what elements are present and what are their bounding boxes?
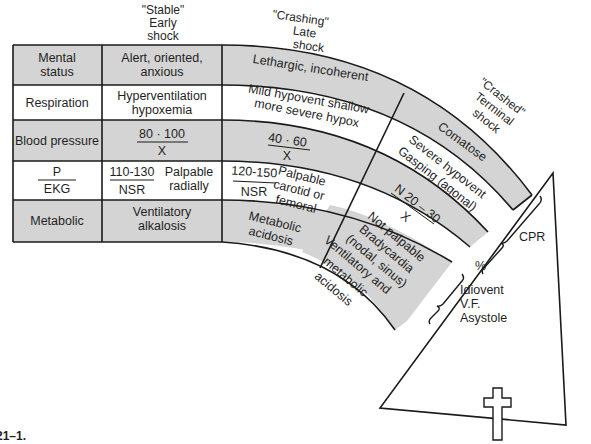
svg-text:alkalosis: alkalosis bbox=[138, 219, 186, 233]
svg-text:anxious: anxious bbox=[140, 65, 183, 79]
svg-text:hypoxemia: hypoxemia bbox=[132, 103, 192, 117]
row-label-respiration: Respiration bbox=[25, 96, 88, 110]
rhythm-vf: V.F. bbox=[460, 297, 480, 311]
svg-text:NSR: NSR bbox=[119, 183, 145, 197]
figure-label: 21–1. bbox=[0, 429, 26, 443]
svg-text:Palpable: Palpable bbox=[165, 165, 214, 179]
svg-text:110-130: 110-130 bbox=[110, 165, 155, 179]
shock-progression-diagram: "Stable" Early shock "Crashing" Late sho… bbox=[0, 0, 591, 444]
svg-text:shock: shock bbox=[147, 29, 179, 43]
row-label-ekg: EKG bbox=[44, 182, 70, 196]
svg-text:80 · 100: 80 · 100 bbox=[139, 127, 185, 141]
row-label-mental: Mental bbox=[38, 51, 76, 65]
svg-text:X: X bbox=[158, 144, 167, 158]
svg-text:X: X bbox=[283, 149, 292, 163]
stage-header-stable: "Stable" Early shock bbox=[142, 3, 185, 43]
stage-header-crashed: "Crashed" Terminal shock bbox=[470, 75, 528, 137]
svg-text:status: status bbox=[40, 65, 73, 79]
svg-text:"Stable": "Stable" bbox=[142, 3, 185, 17]
percent-label: % bbox=[475, 259, 486, 273]
svg-text:Early: Early bbox=[149, 16, 176, 30]
row-label-metabolic: Metabolic bbox=[30, 214, 84, 228]
rhythm-asystole: Asystole bbox=[460, 311, 507, 325]
svg-text:Hyperventilation: Hyperventilation bbox=[117, 89, 207, 103]
svg-text:Ventilatory: Ventilatory bbox=[133, 205, 192, 219]
svg-text:Alert, oriented,: Alert, oriented, bbox=[121, 51, 202, 65]
row-label-blood-pressure: Blood pressure bbox=[15, 134, 99, 148]
svg-text:NSR: NSR bbox=[241, 185, 267, 199]
svg-text:X: X bbox=[398, 209, 414, 226]
cpr-label: CPR bbox=[519, 230, 545, 244]
svg-text:120-150: 120-150 bbox=[231, 163, 278, 180]
svg-text:radially: radially bbox=[169, 179, 209, 193]
rhythm-idiovent: Idiovent bbox=[460, 283, 504, 297]
row-label-pulse: P bbox=[53, 165, 61, 179]
